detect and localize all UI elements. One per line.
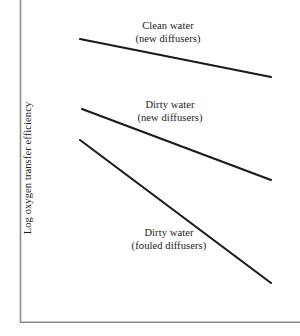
series-annotation-dirty-water-fouled-diffusers-line1: Dirty water	[106, 227, 232, 240]
chart-plot-area	[0, 0, 300, 336]
y-axis-label: Log oxygen transfer efficiency	[22, 88, 34, 248]
series-annotation-clean-water-line2: (new diffusers)	[108, 33, 228, 46]
series-annotation-clean-water: Clean water (new diffusers)	[108, 20, 228, 45]
series-annotation-dirty-water-new-diffusers-line1: Dirty water	[110, 99, 230, 112]
series-annotation-dirty-water-fouled-diffusers-line2: (fouled diffusers)	[106, 240, 232, 253]
chart-figure: Clean water (new diffusers) Dirty water …	[0, 0, 300, 336]
series-annotation-dirty-water-new-diffusers: Dirty water (new diffusers)	[110, 99, 230, 124]
series-line-dirty-water-fouled-diffusers	[80, 140, 271, 283]
series-annotation-clean-water-line1: Clean water	[108, 20, 228, 33]
series-annotation-dirty-water-fouled-diffusers: Dirty water (fouled diffusers)	[106, 227, 232, 252]
series-annotation-dirty-water-new-diffusers-line2: (new diffusers)	[110, 112, 230, 125]
